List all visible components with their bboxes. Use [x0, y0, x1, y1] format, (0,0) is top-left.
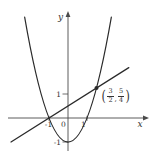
fraction-x-denominator: 2 [108, 97, 112, 105]
y-axis-label: y [57, 12, 64, 22]
x-tick-label-pos1: 1 [81, 120, 86, 129]
y-tick-label-pos1: 1 [56, 90, 61, 99]
plot-svg: -1 1 1 -1 0 x y [0, 0, 149, 155]
graph-figure: -1 1 1 -1 0 x y ( 3 2 , 5 4 ) [0, 0, 149, 155]
y-tick-label-neg1: -1 [54, 138, 61, 147]
point-label-comma: , [115, 94, 117, 103]
y-axis-arrowhead-icon [66, 11, 71, 17]
point-label-close-paren: ) [126, 86, 130, 106]
point-label-open-paren: ( [102, 86, 106, 106]
origin-label: 0 [61, 120, 66, 129]
point-label-fraction-y: 5 4 [118, 88, 124, 105]
intersection-point-dot [95, 86, 99, 90]
x-tick-label-neg1: -1 [45, 120, 52, 129]
point-label-fraction-x: 3 2 [107, 88, 113, 105]
x-axis-arrowhead-icon [143, 116, 149, 121]
point-label: ( 3 2 , 5 4 ) [101, 86, 131, 106]
fraction-y-denominator: 4 [119, 97, 123, 105]
x-axis-label: x [137, 119, 142, 129]
